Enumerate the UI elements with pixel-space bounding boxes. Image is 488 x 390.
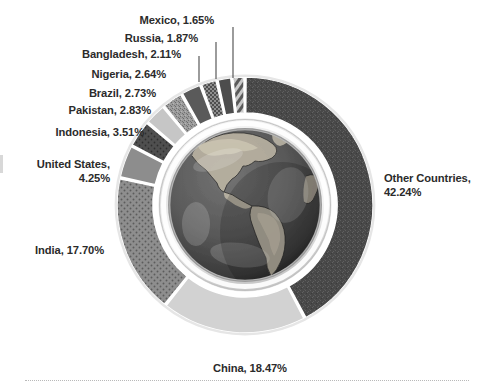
- slice-label-india: India, 17.70%: [0, 244, 104, 258]
- slice-label-china: China, 18.47%: [175, 362, 325, 376]
- left-edge-mark: [0, 155, 3, 173]
- leader-lines: [199, 27, 233, 82]
- slice-label-russia: Russia, 1.87%: [58, 32, 198, 46]
- slice-label-bangladesh: Bangladesh, 2.11%: [28, 48, 181, 62]
- slice-label-nigeria: Nigeria, 2.64%: [36, 68, 166, 82]
- slice-label-mexico: Mexico, 1.65%: [64, 14, 214, 28]
- slice-label-united-states: United States, 4.25%: [4, 158, 110, 185]
- bottom-divider: [25, 380, 469, 381]
- slice-label-other-countries: Other Countries, 42.24%: [384, 172, 488, 199]
- slice-label-indonesia: Indonesia, 3.51%: [4, 126, 144, 140]
- slice-label-pakistan: Pakistan, 2.83%: [14, 104, 151, 118]
- chart-canvas: Other Countries, 42.24%China, 18.47%Indi…: [0, 0, 488, 390]
- slice-label-brazil: Brazil, 2.73%: [26, 87, 156, 101]
